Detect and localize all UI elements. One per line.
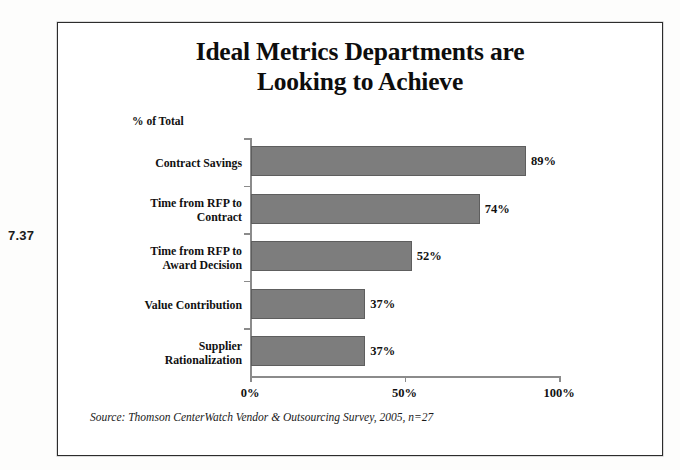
category-label-line: Value Contribution	[62, 298, 242, 313]
category-label: Time from RFP toAward Decision	[62, 244, 242, 273]
chart-title-line-2: Looking to Achieve	[58, 67, 662, 97]
category-label-line: Contract Savings	[62, 156, 242, 171]
category-labels: Contract SavingsTime from RFP toContract…	[58, 138, 242, 376]
y-axis-tick	[244, 281, 250, 283]
chart-title-line-1: Ideal Metrics Departments are	[58, 37, 662, 67]
bar-value-label: 52%	[412, 241, 442, 271]
slide-page: 7.37 Ideal Metrics Departments are Looki…	[0, 0, 680, 470]
bar	[251, 241, 412, 271]
category-label: Value Contribution	[62, 298, 242, 313]
y-axis-tick	[244, 138, 250, 140]
x-axis-tick	[559, 376, 561, 382]
x-axis-tick	[405, 376, 407, 382]
slide-frame: Ideal Metrics Departments are Looking to…	[57, 22, 663, 456]
plot-area: 89%74%52%37%37% Contract SavingsTime fro…	[250, 138, 559, 376]
category-label-line: Rationalization	[62, 353, 242, 368]
bar-value-label: 37%	[365, 336, 395, 366]
category-label: Time from RFP toContract	[62, 196, 242, 225]
bar	[251, 289, 365, 319]
axis-units-label: % of Total	[132, 115, 184, 127]
bar-value-label: 37%	[365, 289, 395, 319]
y-axis-tick	[244, 186, 250, 188]
chart-title: Ideal Metrics Departments are Looking to…	[58, 37, 662, 97]
category-label: Contract Savings	[62, 156, 242, 171]
x-tick-label: 0%	[241, 386, 260, 401]
x-tick-label: 100%	[543, 386, 574, 401]
bar	[251, 146, 526, 176]
y-axis-tick	[244, 233, 250, 235]
bar-value-label: 89%	[526, 146, 556, 176]
category-label-line: Time from RFP to	[62, 244, 242, 259]
category-label: SupplierRationalization	[62, 339, 242, 368]
figure-number: 7.37	[8, 228, 34, 243]
category-label-line: Contract	[62, 210, 242, 225]
source-note: Source: Thomson CenterWatch Vendor & Out…	[90, 411, 433, 423]
category-label-line: Supplier	[62, 339, 242, 354]
x-axis-tick	[250, 376, 252, 382]
category-label-line: Time from RFP to	[62, 196, 242, 211]
x-tick-label: 50%	[392, 386, 417, 401]
bar	[251, 336, 365, 366]
bar-value-label: 74%	[480, 194, 510, 224]
y-axis-tick	[244, 328, 250, 330]
bar	[251, 194, 480, 224]
category-label-line: Award Decision	[62, 258, 242, 273]
